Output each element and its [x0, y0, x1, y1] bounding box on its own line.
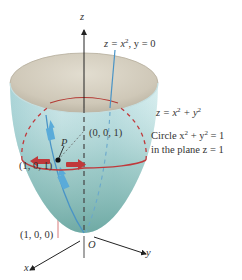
surface-eq-mid: + y: [181, 107, 198, 118]
circle-equation-line1: Circle x2 + y2 = 1: [151, 131, 224, 142]
circle-equation-line2: in the plane z = 1: [151, 145, 224, 156]
origin-label: O: [88, 240, 96, 251]
point-001-label: (0, 0, 1): [89, 128, 122, 139]
y-axis-label: y: [146, 248, 151, 259]
parabola-eq-main: z = x: [104, 38, 125, 49]
red-arrow-right-shaft: [66, 162, 80, 167]
point-P-marker: [55, 157, 60, 162]
z-axis-label: z: [80, 12, 84, 23]
surface-eq-main: z = x: [156, 107, 177, 118]
x-axis: [30, 241, 80, 270]
surface-equation-label: z = x2 + y2: [156, 108, 201, 119]
point-100-label: (1, 0, 0): [20, 230, 53, 241]
parabola-eq-tail: , y = 0: [129, 38, 156, 49]
surface-eq-exp2: 2: [198, 106, 202, 114]
paraboloid-diagram: z z = x2, y = 0 z = x2 + y2 Circle x2 + …: [0, 0, 242, 280]
point-P-label: P: [61, 138, 67, 149]
circle-eq-a: Circle x: [151, 130, 185, 141]
circle-eq-b: + y: [188, 130, 204, 141]
y-axis: [94, 237, 146, 254]
point-101-label: (1, 0, 1): [19, 161, 52, 172]
x-axis-label: x: [24, 263, 29, 274]
circle-eq-c: = 1: [208, 130, 224, 141]
parabola-equation-label: z = x2, y = 0: [104, 39, 156, 50]
